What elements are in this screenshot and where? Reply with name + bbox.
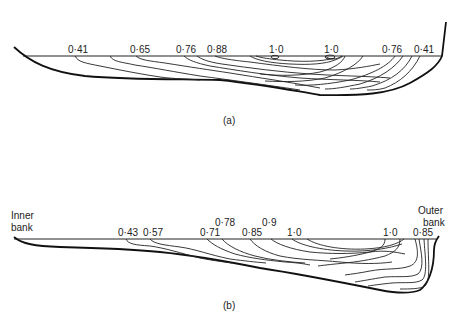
isovel-label: 0·57 xyxy=(143,227,163,238)
isovel-label: 0·78 xyxy=(215,217,235,228)
channel-bed-a xyxy=(14,22,446,95)
isovel-label: 1·0 xyxy=(324,44,339,55)
isovels-a xyxy=(75,55,420,90)
isovel-label: 1·0 xyxy=(383,227,398,238)
isovel-label: 0·9 xyxy=(262,217,277,228)
isovel-label: 1·0 xyxy=(287,227,302,238)
isovel-label: 0·41 xyxy=(68,44,88,55)
isovel-label: 0·41 xyxy=(414,44,434,55)
channel-bed-b xyxy=(14,236,439,293)
panel-caption-b: (b) xyxy=(223,300,235,311)
isovel-label: 0·43 xyxy=(118,227,138,238)
isovel-label: 0·88 xyxy=(207,44,227,55)
inner-bank-label-line2: bank xyxy=(11,222,34,233)
panel-caption-a: (a) xyxy=(223,115,235,126)
isovel-labels-a: 0·41 0·65 0·76 0·88 1·0 1·0 0·76 0·41 xyxy=(68,44,434,55)
panel-b: Inner bank Outer bank 0·43 0·57 0·71 0·7… xyxy=(11,205,446,311)
isovel-label: 1·0 xyxy=(269,44,284,55)
isovel-label: 0·85 xyxy=(242,227,262,238)
isovels-b xyxy=(126,239,429,289)
isovel-label: 0·71 xyxy=(200,227,220,238)
panel-a: 0·41 0·65 0·76 0·88 1·0 1·0 0·76 0·41 (a… xyxy=(14,22,446,126)
outer-bank-label-line1: Outer xyxy=(418,205,444,216)
isovel-label: 0·65 xyxy=(130,44,150,55)
inner-bank-label-line1: Inner xyxy=(11,210,34,221)
isovel-label: 0·76 xyxy=(382,44,402,55)
isovel-label: 0·76 xyxy=(176,44,196,55)
isovel-label: 0·85 xyxy=(413,227,433,238)
channel-velocity-diagram: 0·41 0·65 0·76 0·88 1·0 1·0 0·76 0·41 (a… xyxy=(0,0,461,318)
isovel-labels-b: 0·43 0·57 0·71 0·78 0·85 0·9 1·0 1·0 0·8… xyxy=(118,217,433,238)
